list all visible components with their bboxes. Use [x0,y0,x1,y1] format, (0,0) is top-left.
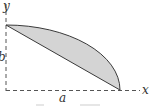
height-label: b [0,50,6,64]
x-axis-label: x [142,83,149,97]
y-axis-label: y [2,0,10,13]
width-label: a [59,91,66,105]
diagram: y x b a [0,0,151,108]
caption-marks [36,104,100,106]
